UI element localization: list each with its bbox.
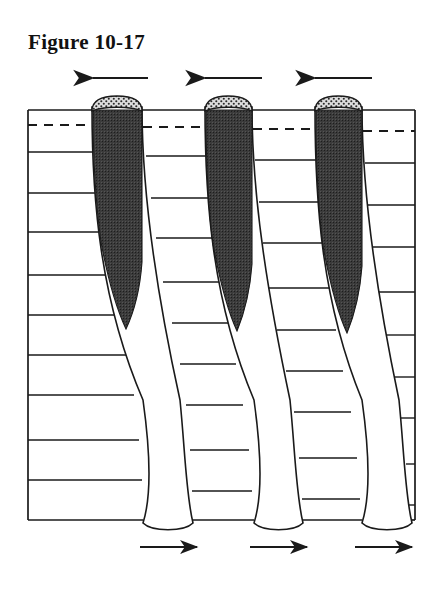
figure-root: Figure 10-17 (0, 0, 440, 590)
cross-section-diagram (0, 0, 440, 590)
